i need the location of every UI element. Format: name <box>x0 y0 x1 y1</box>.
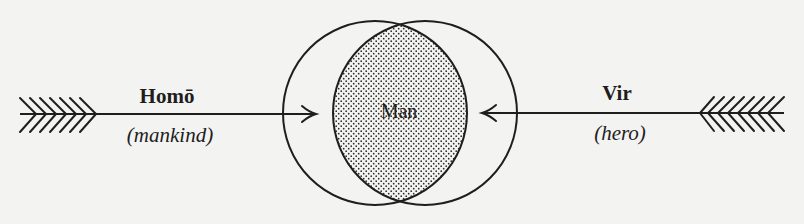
venn-diagram: Man <box>0 0 804 224</box>
right-term-label: Vir <box>602 81 632 105</box>
center-label: Man <box>381 100 418 122</box>
left-term-label: Homō <box>140 84 195 108</box>
right-gloss-label: (hero) <box>594 121 646 145</box>
left-gloss-label: (mankind) <box>127 123 213 147</box>
